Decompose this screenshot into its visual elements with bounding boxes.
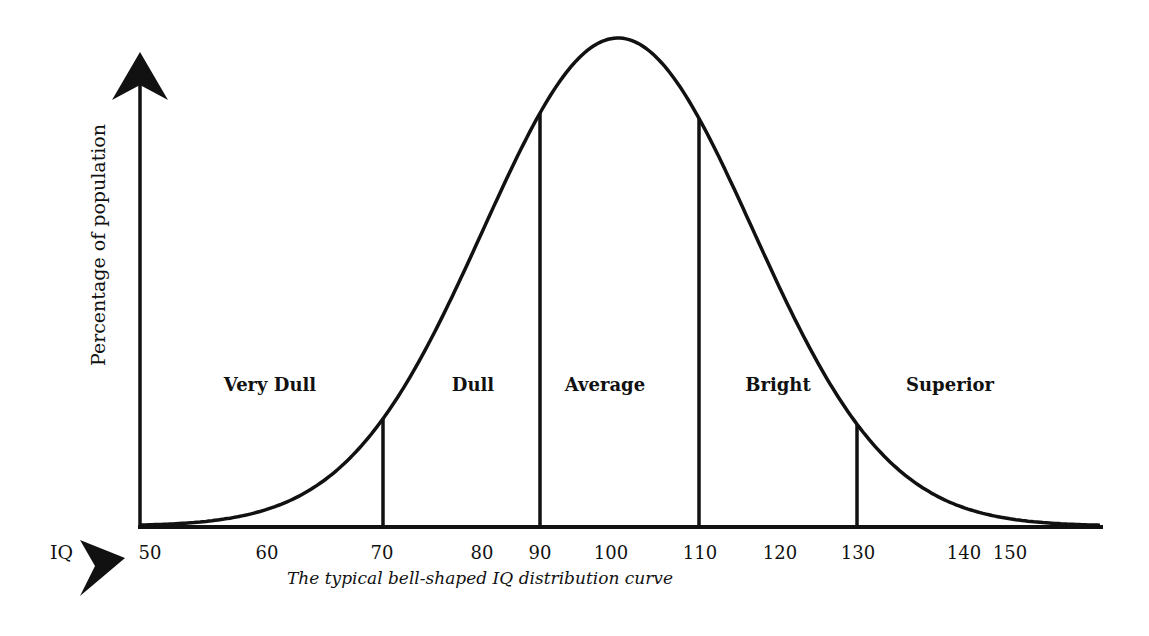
region-label-superior: Superior <box>906 374 994 395</box>
x-tick-120: 120 <box>763 542 797 563</box>
x-tick-90: 90 <box>529 542 552 563</box>
category-boundaries <box>383 113 857 526</box>
bell-curve-line <box>140 38 1100 525</box>
x-tick-70: 70 <box>371 542 394 563</box>
region-label-dull: Dull <box>452 374 495 395</box>
region-label-average: Average <box>564 374 645 395</box>
x-tick-labels: 5060708090100110120130140150 <box>139 542 1028 563</box>
region-label-bright: Bright <box>745 374 811 395</box>
x-tick-110: 110 <box>683 542 717 563</box>
bell-curve-chart: Very DullDullAverageBrightSuperior 50607… <box>0 0 1149 636</box>
x-tick-80: 80 <box>471 542 494 563</box>
category-labels: Very DullDullAverageBrightSuperior <box>223 374 995 395</box>
x-tick-140: 140 <box>947 542 981 563</box>
x-tick-150: 150 <box>993 542 1027 563</box>
x-axis-arrow-icon <box>80 540 125 596</box>
x-axis-label: IQ <box>50 541 73 563</box>
x-tick-60: 60 <box>256 542 279 563</box>
x-tick-100: 100 <box>594 542 628 563</box>
y-axis-label: Percentage of population <box>87 124 109 366</box>
x-tick-130: 130 <box>841 542 875 563</box>
x-tick-50: 50 <box>139 542 162 563</box>
region-label-very-dull: Very Dull <box>223 374 317 395</box>
chart-caption: The typical bell-shaped IQ distribution … <box>287 568 673 588</box>
